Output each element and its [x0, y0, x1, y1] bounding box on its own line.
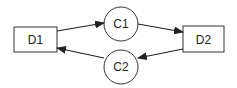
node-c2: C2 [104, 50, 138, 84]
node-d1-label: D1 [28, 33, 44, 47]
node-c2-label: C2 [113, 60, 129, 74]
edge-d2-c2 [138, 49, 183, 58]
node-c1: C1 [104, 7, 138, 41]
node-d2: D2 [183, 26, 224, 52]
cycle-diagram: D1 C1 D2 C2 [0, 0, 237, 88]
node-d2-label: D2 [196, 33, 212, 47]
node-d1: D1 [14, 27, 57, 52]
node-c1-label: C1 [113, 17, 129, 31]
edge-c2-d1 [57, 48, 104, 58]
edge-d1-c1 [57, 23, 104, 31]
edge-c1-d2 [138, 24, 183, 32]
